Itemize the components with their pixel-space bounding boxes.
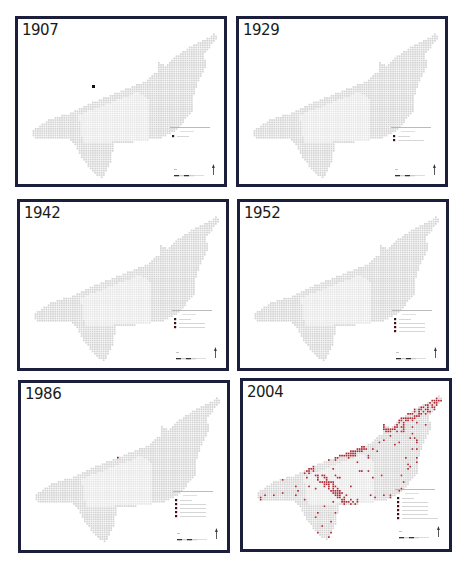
- scale-bar-icon: [174, 169, 204, 176]
- north-arrow-icon: [434, 347, 437, 358]
- year-label: 1952: [244, 204, 280, 222]
- region-map: [243, 381, 449, 549]
- year-label: 1929: [243, 21, 279, 39]
- scale-bar-icon: [395, 169, 425, 176]
- scale-bar-icon: [177, 533, 207, 540]
- map-legend: [173, 491, 213, 517]
- scale-bar-icon: [176, 352, 206, 359]
- scale-bar-icon: [399, 531, 429, 538]
- map-panel-1952: 1952: [237, 199, 449, 371]
- map-legend: [172, 310, 212, 328]
- urban-point: [92, 85, 95, 88]
- region-map: [20, 202, 226, 368]
- north-arrow-icon: [215, 528, 218, 539]
- north-arrow-icon: [433, 164, 436, 175]
- north-arrow-icon: [214, 347, 217, 358]
- north-arrow-icon: [437, 526, 440, 537]
- year-label: 2004: [247, 383, 283, 401]
- map-panel-1986: 1986: [18, 380, 230, 553]
- map-panel-1942: 1942: [17, 199, 229, 371]
- map-legend: [395, 489, 438, 519]
- map-panel-1929: 1929: [236, 16, 448, 187]
- region-map: [240, 202, 446, 368]
- north-arrow-icon: [212, 164, 215, 175]
- map-panel-2004: 2004: [240, 378, 452, 552]
- year-label: 1942: [24, 204, 60, 222]
- map-panel-1907: 1907: [15, 16, 227, 187]
- year-label: 1986: [25, 385, 61, 403]
- year-label: 1907: [22, 21, 58, 39]
- map-legend: [392, 310, 432, 332]
- region-map: [21, 383, 227, 550]
- scale-bar-icon: [396, 352, 426, 359]
- region-map: [18, 19, 224, 184]
- region-map: [239, 19, 445, 184]
